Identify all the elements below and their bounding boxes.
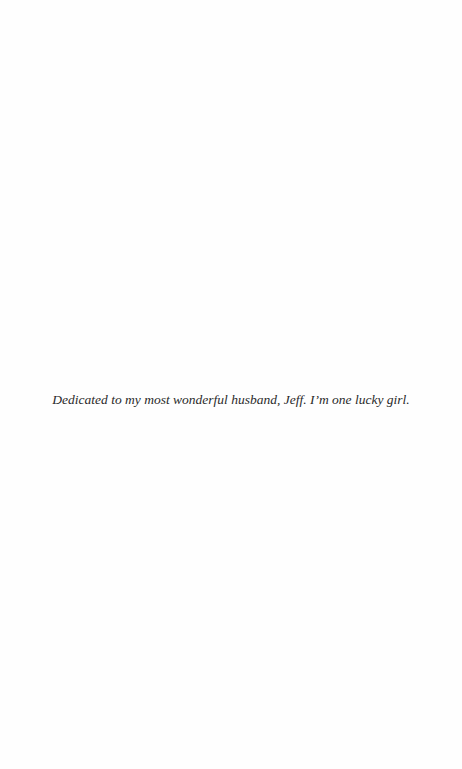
dedication-text: Dedicated to my most wonderful husband, … xyxy=(0,392,462,408)
book-page: Dedicated to my most wonderful husband, … xyxy=(0,0,462,769)
